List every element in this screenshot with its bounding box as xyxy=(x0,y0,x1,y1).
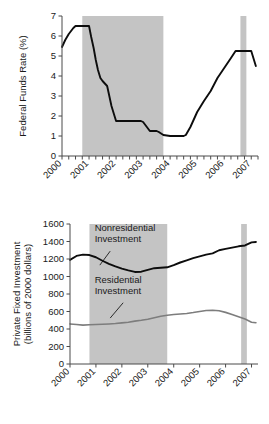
x-tick-label: 2006 xyxy=(203,158,226,181)
bottom-y-tick-labels: 02004006008001000120014001600 xyxy=(43,218,64,369)
y-tick-label: 200 xyxy=(48,341,64,352)
panel-private-fixed-investment: NonresidentialInvestmentResidentialInves… xyxy=(11,218,258,388)
y-tick-label: 1000 xyxy=(43,271,64,282)
two-panel-chart: 01234567 2000200120022003200420052006200… xyxy=(0,0,269,424)
y-tick-label: 7 xyxy=(51,10,56,21)
x-tick-label: 2003 xyxy=(126,366,149,389)
x-tick-label: 2004 xyxy=(149,158,172,181)
y-tick-label: 3 xyxy=(51,90,56,101)
x-tick-label: 2002 xyxy=(101,366,124,389)
y-tick-label: 1400 xyxy=(43,236,64,247)
shaded-region-recession-2001 xyxy=(82,16,163,156)
residential-label-line-2: Investment xyxy=(95,285,142,296)
y-tick-label: 600 xyxy=(48,306,64,317)
nonresidential-label-line-1: Nonresidential xyxy=(95,222,156,233)
y-tick-label: 400 xyxy=(48,323,64,334)
x-tick-label: 2000 xyxy=(41,158,64,181)
top-x-tick-labels: 20002001200220032004200520062007 xyxy=(41,158,253,181)
nonresidential-label-line-2: Investment xyxy=(95,233,142,244)
panel-federal-funds-rate: 01234567 2000200120022003200420052006200… xyxy=(17,10,258,180)
x-tick-label: 2007 xyxy=(230,366,253,389)
y-tick-label: 2 xyxy=(51,110,56,121)
y-tick-label: 1200 xyxy=(43,253,64,264)
figure-container: 01234567 2000200120022003200420052006200… xyxy=(0,0,269,424)
y-tick-label: 6 xyxy=(51,30,56,41)
y-tick-label: 4 xyxy=(51,70,56,81)
x-tick-label: 2004 xyxy=(152,366,175,389)
y-tick-label: 1600 xyxy=(43,218,64,229)
x-tick-label: 2002 xyxy=(95,158,118,181)
x-tick-label: 2001 xyxy=(68,158,91,181)
x-tick-label: 2007 xyxy=(230,158,253,181)
bottom-y-axis-title-line-1: Private Fixed Investment xyxy=(11,241,22,346)
x-tick-label: 2005 xyxy=(178,366,201,389)
bottom-x-tick-labels: 20002001200220032004200520062007 xyxy=(49,366,253,389)
x-tick-label: 2005 xyxy=(176,158,199,181)
y-tick-label: 1 xyxy=(51,130,56,141)
bottom-y-axis-title-line-2: (billions of 2000 dollars) xyxy=(22,244,33,344)
x-tick-label: 2000 xyxy=(49,366,72,389)
x-tick-label: 2006 xyxy=(204,366,227,389)
x-tick-label: 2003 xyxy=(122,158,145,181)
top-y-tick-labels: 01234567 xyxy=(51,10,56,161)
bottom-y-axis-title: Private Fixed Investment(billions of 200… xyxy=(11,241,33,346)
top-y-axis-title: Federal Funds Rate (%) xyxy=(17,35,28,136)
x-tick-label: 2001 xyxy=(75,366,98,389)
y-tick-label: 800 xyxy=(48,288,64,299)
residential-label-line-1: Residential xyxy=(95,274,142,285)
shaded-region-band-2006 xyxy=(240,16,246,156)
y-tick-label: 5 xyxy=(51,50,56,61)
